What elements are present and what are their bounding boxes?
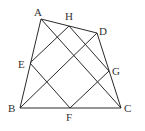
point-label-e: E [18, 58, 25, 70]
point-label-h: H [65, 10, 73, 22]
diagonal-AC [41, 19, 121, 108]
point-label-g: G [112, 65, 120, 77]
point-label-f: F [66, 111, 72, 123]
point-label-c: C [124, 102, 131, 114]
point-label-b: B [8, 102, 15, 114]
segment-GF [70, 71, 109, 108]
point-label-d: D [99, 25, 107, 37]
labels-group: AHDEGBFC [8, 6, 131, 123]
quadrilateral-diagram: AHDEGBFC [0, 0, 145, 131]
segment-FE [30, 63, 70, 108]
segment-EH [30, 26, 69, 63]
point-label-a: A [34, 6, 42, 18]
